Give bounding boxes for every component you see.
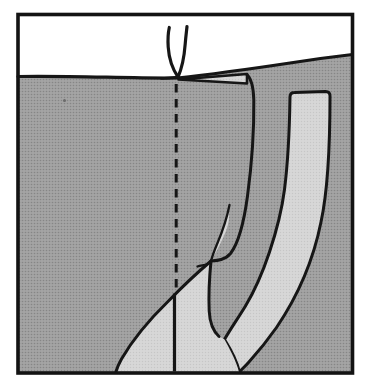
- seedling-base-tick: [162, 77, 179, 79]
- soil-speck: [63, 99, 66, 102]
- soil-cross-section-figure: [0, 0, 372, 391]
- diagram-canvas: [0, 0, 372, 391]
